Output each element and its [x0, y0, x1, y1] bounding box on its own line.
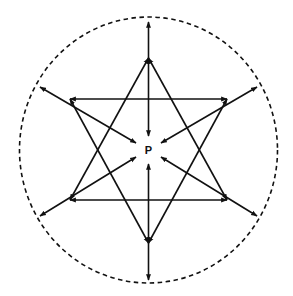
hexagram-diagram: P [0, 0, 293, 296]
upward-triangle-edge-arrow [70, 58, 149, 200]
radial-arrow-150 [40, 87, 136, 143]
downward-triangle-edge-arrow [149, 99, 228, 243]
radial-arrow-30 [161, 87, 257, 143]
upward-triangle-edge-arrow [149, 58, 228, 200]
downward-triangle-edge-arrow [70, 99, 149, 243]
center-label-p: P [145, 144, 152, 156]
